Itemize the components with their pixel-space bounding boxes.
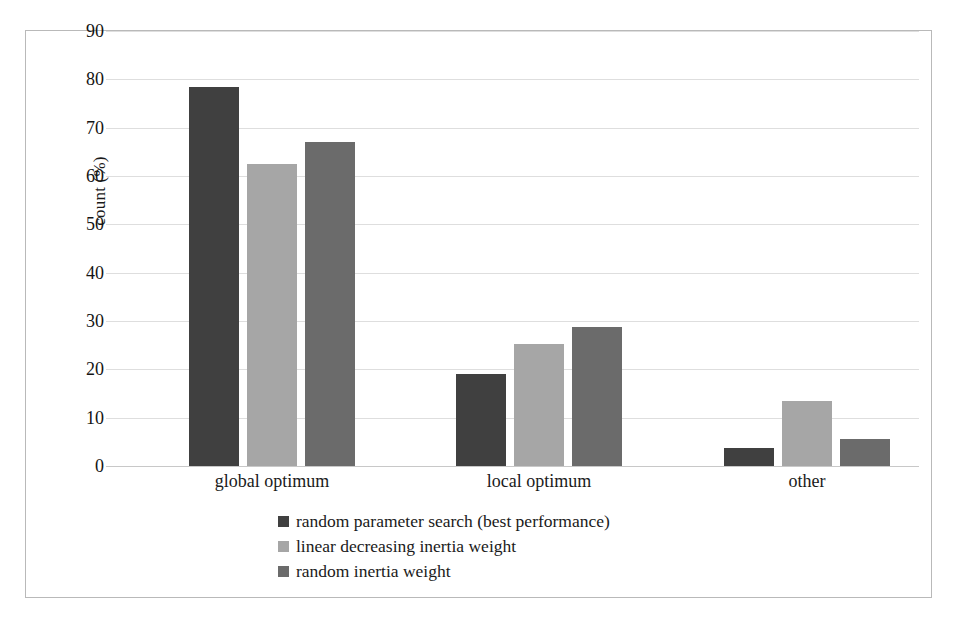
plot-area: count (%) 0102030405060708090 global opt… <box>26 31 931 466</box>
y-tick-label: 50 <box>56 215 104 233</box>
legend-label: random inertia weight <box>296 563 451 581</box>
chart-legend: random parameter search (best performanc… <box>26 509 931 584</box>
bar <box>514 344 564 466</box>
y-tick-label: 80 <box>56 70 104 88</box>
bar <box>305 142 355 466</box>
bar <box>724 448 774 466</box>
bar <box>247 164 297 466</box>
legend-swatch-icon <box>278 566 289 577</box>
chart-figure: count (%) 0102030405060708090 global opt… <box>25 30 932 598</box>
legend-item[interactable]: linear decreasing inertia weight <box>278 534 516 559</box>
legend-swatch-icon <box>278 541 289 552</box>
y-tick-label: 60 <box>56 167 104 185</box>
x-axis-label: local optimum <box>487 471 591 492</box>
legend-item[interactable]: random parameter search (best performanc… <box>278 509 610 534</box>
y-tick-label: 10 <box>56 409 104 427</box>
bar <box>782 401 832 466</box>
bar <box>189 87 239 466</box>
legend-label: random parameter search (best performanc… <box>296 513 610 531</box>
x-axis-label: global optimum <box>215 471 330 492</box>
y-tick-label: 90 <box>56 22 104 40</box>
y-tick-label: 20 <box>56 360 104 378</box>
y-tick-label: 0 <box>56 457 104 475</box>
legend-label: linear decreasing inertia weight <box>296 538 516 556</box>
bar-group <box>456 31 622 466</box>
y-tick-label: 40 <box>56 264 104 282</box>
legend-item[interactable]: random inertia weight <box>278 559 451 584</box>
bar <box>572 327 622 466</box>
bar-group <box>189 31 355 466</box>
bar <box>840 439 890 466</box>
bar-group <box>724 31 890 466</box>
plot-canvas <box>106 31 919 466</box>
bar <box>456 374 506 466</box>
bar-series-container <box>106 31 919 466</box>
y-tick-label: 70 <box>56 119 104 137</box>
x-axis-category-labels: global optimumlocal optimumother <box>106 471 919 501</box>
x-axis-label: other <box>789 471 826 492</box>
y-tick-label: 30 <box>56 312 104 330</box>
y-axis-ticks: 0102030405060708090 <box>56 31 104 466</box>
axis-baseline <box>106 466 919 467</box>
legend-swatch-icon <box>278 516 289 527</box>
